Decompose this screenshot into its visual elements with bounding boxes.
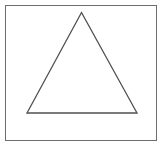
figure-canvas [0, 0, 163, 148]
triangle-outline [27, 13, 137, 114]
outer-rectangle-border [6, 6, 157, 141]
figure-svg [0, 0, 163, 148]
